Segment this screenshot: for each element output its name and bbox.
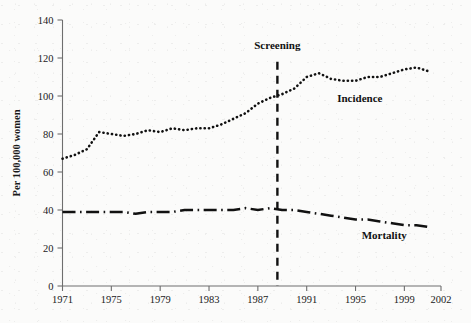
y-tick-label: 20 (43, 243, 54, 254)
incidence-series-line (63, 68, 429, 159)
incidence-series-label: Incidence (337, 92, 382, 104)
x-tick-label: 1995 (345, 294, 366, 305)
x-axis-ticks: 197119751979198319871991199519992002 (52, 286, 452, 305)
x-tick-label: 1987 (247, 294, 268, 305)
y-tick-label: 0 (48, 281, 53, 292)
y-axis-title: Per 100,000 women (11, 109, 22, 196)
x-tick-label: 1975 (101, 294, 122, 305)
x-tick-label: 1991 (296, 294, 317, 305)
mortality-series-line (63, 208, 429, 227)
y-axis-ticks: 020406080100120140 (38, 15, 63, 292)
y-tick-label: 60 (43, 167, 54, 178)
screening-annotation-label: Screening (254, 39, 301, 51)
y-tick-label: 80 (43, 129, 54, 140)
mortality-series-label: Mortality (362, 229, 408, 241)
x-tick-label: 1999 (394, 294, 415, 305)
chart-container: 020406080100120140 197119751979198319871… (0, 0, 471, 323)
y-tick-label: 100 (38, 91, 54, 102)
x-tick-label: 1971 (52, 294, 73, 305)
x-tick-label: 2002 (431, 294, 452, 305)
x-tick-label: 1983 (199, 294, 220, 305)
y-tick-label: 120 (38, 53, 54, 64)
y-tick-label: 140 (38, 15, 54, 26)
x-tick-label: 1979 (150, 294, 171, 305)
incidence-mortality-chart: 020406080100120140 197119751979198319871… (0, 0, 471, 323)
y-tick-label: 40 (43, 205, 54, 216)
